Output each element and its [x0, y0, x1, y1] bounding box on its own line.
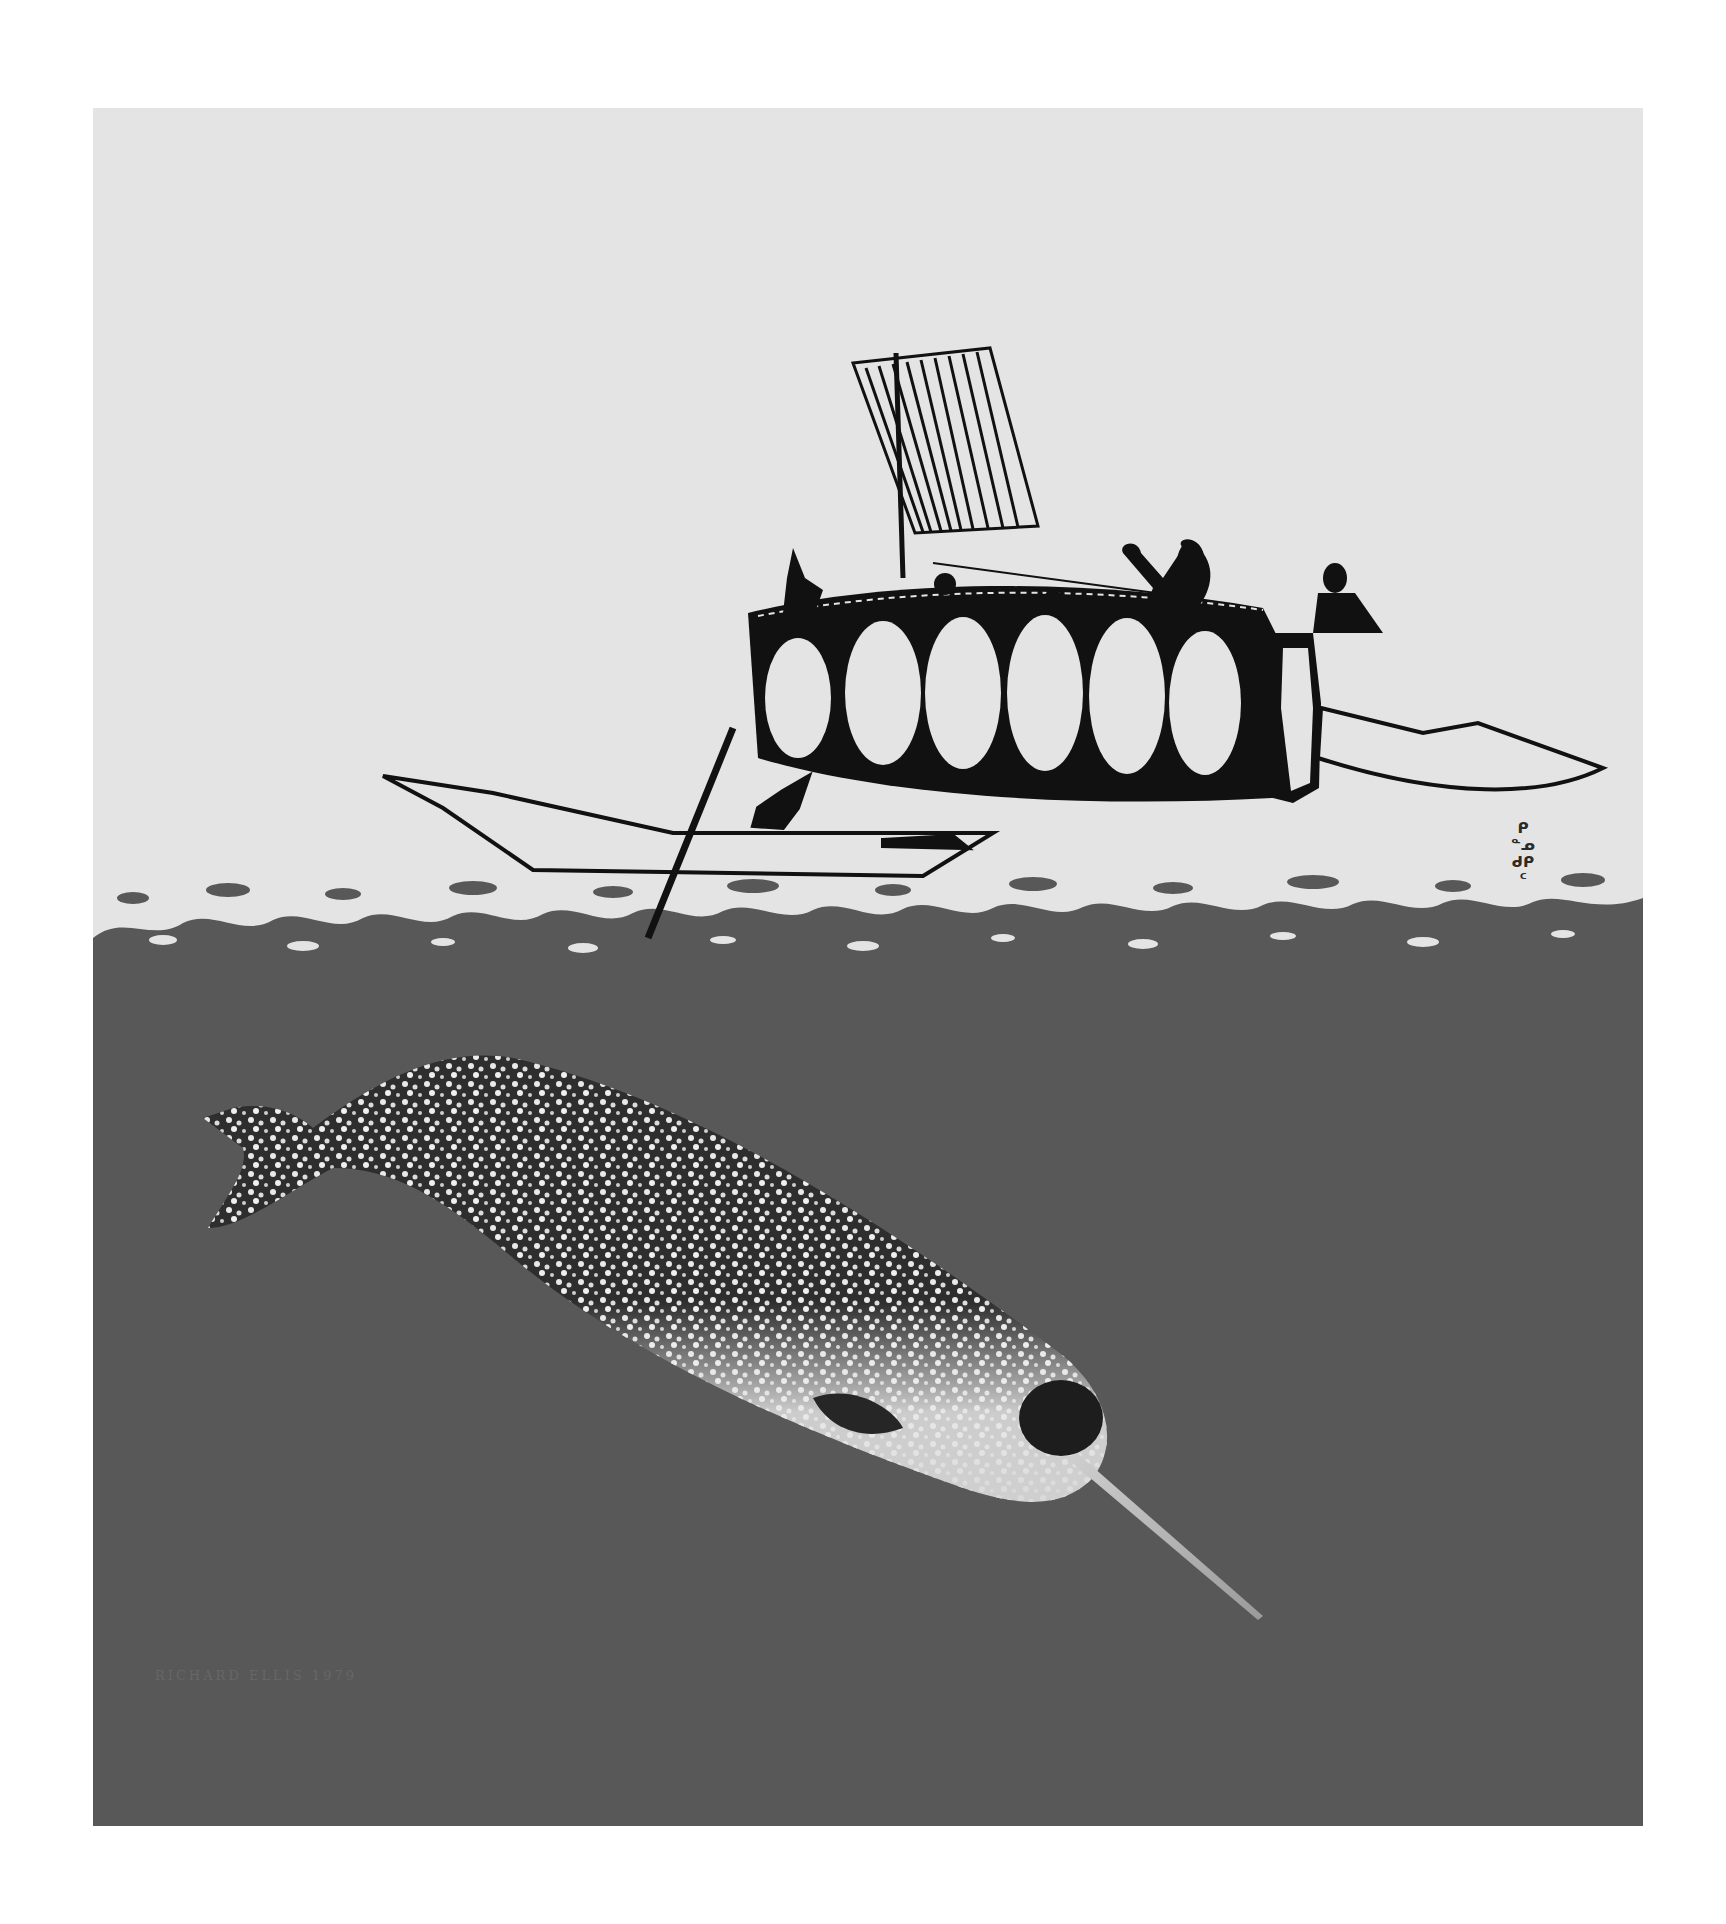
syllabics-inscription: ᑭ ᓐᓄ ᑯᑭ ᑦ	[1508, 820, 1538, 888]
syllabics-line: ᑯᑭ	[1508, 854, 1538, 871]
narwhal	[203, 1056, 1263, 1620]
syllabics-line: ᑦ	[1508, 871, 1538, 888]
artist-signature: RICHARD ELLIS 1979	[155, 1668, 357, 1683]
artwork-frame: RICHARD ELLIS 1979 ᑭ ᓐᓄ ᑯᑭ ᑦ	[93, 108, 1643, 1826]
artwork-illustration	[93, 108, 1643, 1826]
water-surface	[93, 873, 1643, 988]
syllabics-line: ᑭ	[1508, 820, 1538, 837]
syllabics-line: ᓐᓄ	[1508, 837, 1538, 854]
umiak-hull	[748, 586, 1603, 803]
